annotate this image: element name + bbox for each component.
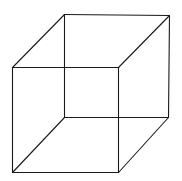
cube-edge-front-top-right-to-back-top-right bbox=[119, 16, 170, 68]
cube-edge-front-top-left-to-back-top-left bbox=[13, 15, 65, 68]
cube-edge-front-bottom-right-to-back-bottom-right bbox=[119, 118, 169, 173]
cube-edge-back-top-right-to-back-bottom-right bbox=[169, 16, 170, 118]
cube-edges bbox=[13, 15, 170, 173]
necker-cube-drawing bbox=[0, 0, 182, 181]
cube-diagram-canvas bbox=[0, 0, 182, 181]
cube-edge-back-top-left-to-back-top-right bbox=[65, 15, 170, 16]
cube-edge-front-bottom-left-to-back-bottom-left bbox=[13, 118, 65, 173]
